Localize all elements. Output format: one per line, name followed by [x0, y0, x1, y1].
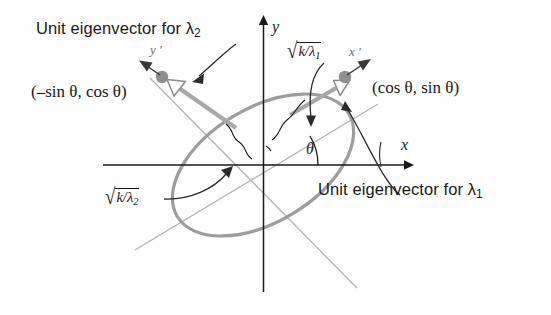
label-semi-minor-length: √k/λ2 — [105, 186, 139, 208]
label-unit-eigenvector-lambda1: Unit eigenvector for λ1 — [318, 180, 483, 201]
eigenvector-ellipse-figure: Unit eigenvector for λ2 (–sin θ, cos θ) … — [0, 0, 551, 315]
semi-major-brace — [272, 100, 305, 140]
leader-semi-minor-head — [221, 166, 233, 178]
diagram-canvas — [0, 0, 551, 315]
label-y-axis: y — [272, 18, 279, 36]
label-theta-angle: θ — [306, 140, 314, 158]
y-prime-direction-arrowhead — [139, 61, 153, 72]
leader-eigenvector-lambda2 — [199, 44, 236, 76]
label-x-prime-axis: x ′ — [349, 44, 361, 60]
leader-semi-major — [310, 63, 324, 118]
label-semi-major-length: √k/λ1 — [287, 40, 321, 62]
label-coords-lambda2: (–sin θ, cos θ) — [31, 82, 127, 102]
x-prime-axis-line — [135, 104, 378, 250]
leader-eigenvector-lambda1-head — [341, 101, 352, 112]
leader-eigenvector-lambda2-head — [192, 74, 204, 85]
label-coords-lambda1: (cos θ, sin θ) — [372, 78, 459, 98]
origin-angle-tick — [266, 146, 271, 151]
semi-minor-brace — [226, 124, 252, 159]
x-axis-arrowhead — [404, 160, 414, 169]
label-y-prime-axis: y ′ — [150, 42, 162, 58]
y-axis-arrowhead — [259, 15, 268, 25]
label-x-axis: x — [401, 136, 408, 154]
x-label-tick — [380, 142, 382, 167]
label-unit-eigenvector-lambda2: Unit eigenvector for λ2 — [36, 19, 201, 40]
leader-semi-major-head — [306, 116, 316, 128]
x-prime-direction-arrowhead — [358, 59, 372, 71]
